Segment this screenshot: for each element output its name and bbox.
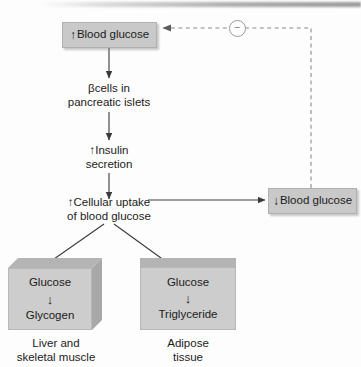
caption-liver-muscle-line2: skeletal muscle [0,350,112,364]
node-beta-cells-line2: pancreatic islets [59,96,159,110]
node-cellular-uptake-line1: ↑Cellular uptake [44,196,174,210]
node-cellular-uptake-line2: of blood glucose [44,210,174,224]
dashed-negative-feedback-line [163,28,311,188]
caption-liver-muscle: Liver and skeletal muscle [0,336,112,364]
caption-adipose-line1: Adipose [138,336,238,350]
liver-substrate-label: Glucose [29,277,71,289]
node-blood-glucose-low[interactable]: ↓ Blood glucose [268,188,357,214]
node-beta-cells-line1: βcells in [59,82,159,96]
node-blood-glucose-high[interactable]: ↑ Blood glucose [62,22,157,48]
node-insulin-secretion-line1: ↑Insulin [59,144,159,158]
cube-top-face [140,258,236,267]
down-arrow-icon: ↓ [47,293,54,306]
caption-adipose: Adipose tissue [138,336,238,364]
caption-liver-muscle-line1: Liver and [0,336,112,350]
down-arrow-icon: ↓ [273,195,279,207]
node-cellular-uptake: ↑Cellular uptake of blood glucose [44,196,174,223]
down-arrow-icon: ↓ [185,292,192,305]
node-insulin-secretion-line2: secretion [59,158,159,172]
node-cellular-uptake-text: Cellular uptake [74,196,151,208]
diagram-canvas: ↑ Blood glucose − βcells in pancreatic i… [0,0,361,367]
negative-feedback-icon: − [229,20,246,37]
cube-front-face: Glucose ↓ Glycogen [8,268,92,330]
node-adipose-cube[interactable]: Glucose ↓ Triglyceride [140,258,240,330]
node-blood-glucose-high-label: Blood glucose [77,29,149,41]
node-beta-cells: βcells in pancreatic islets [59,82,159,109]
adipose-product-label: Triglyceride [158,309,217,321]
node-liver-muscle-cube[interactable]: Glucose ↓ Glycogen [8,258,112,330]
cube-side-face [92,258,102,330]
node-insulin-secretion-text: Insulin [95,144,128,156]
node-blood-glucose-low-label: Blood glucose [280,195,352,207]
caption-adipose-line2: tissue [138,350,238,364]
scan-shadow-artifact [40,2,361,7]
adipose-substrate-label: Glucose [167,277,209,289]
up-arrow-icon: ↑ [70,29,76,41]
liver-product-label: Glycogen [26,310,75,322]
cube-front-face: Glucose ↓ Triglyceride [140,267,236,330]
node-insulin-secretion: ↑Insulin secretion [59,144,159,171]
cube-top-face [8,258,102,268]
